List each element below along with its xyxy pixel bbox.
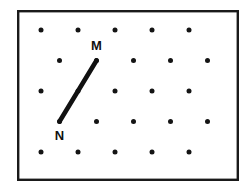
lattice-dot [168,119,173,124]
lattice-dot [187,28,192,33]
lattice-dot [76,150,81,155]
lattice-dot [205,119,210,124]
outer-border [18,11,238,180]
figure-root: MN [0,0,249,194]
lattice-dot [187,89,192,94]
lattice-dot [150,150,155,155]
lattice-dot [168,58,173,63]
dot-lattice-diagram: MN [0,0,249,194]
lattice-dot [39,150,44,155]
lattice-dot [39,89,44,94]
lattice-dot [113,89,118,94]
lattice-dot [150,89,155,94]
lattice-dot [94,119,99,124]
lattice-dot [76,28,81,33]
lattice-dot [131,58,136,63]
lattice-dot [113,150,118,155]
lattice-dot [39,28,44,33]
lattice-dot [205,58,210,63]
point-label-m: M [91,38,102,53]
lattice-dot [57,58,62,63]
lattice-dot [131,119,136,124]
point-label-n: N [55,128,64,143]
lattice-dot [150,28,155,33]
lattice-dot [113,28,118,33]
lattice-dot [187,150,192,155]
